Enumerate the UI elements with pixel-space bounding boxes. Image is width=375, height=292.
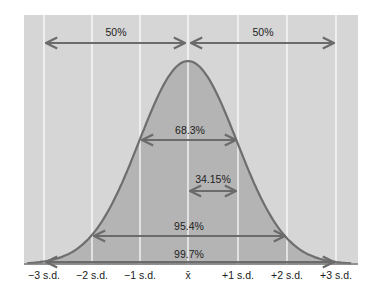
tick-mean: x̄ [185, 269, 191, 281]
tick-plus-1sd: +1 s.d. [222, 269, 254, 281]
tick-minus-3sd: −3 s.d. [28, 269, 60, 281]
normal-distribution-chart: 50% 50% 68.3% 34.15% 95.4% 99.7% −3 s.d.… [0, 0, 375, 292]
tick-minus-2sd: −2 s.d. [76, 269, 108, 281]
label-50-left: 50% [105, 26, 126, 38]
label-34: 34.15% [195, 173, 231, 185]
label-50-right: 50% [252, 26, 273, 38]
label-95: 95.4% [174, 220, 204, 232]
label-99: 99.7% [174, 248, 204, 260]
label-68: 68.3% [175, 124, 205, 136]
tick-minus-1sd: −1 s.d. [124, 269, 156, 281]
tick-plus-2sd: +2 s.d. [271, 269, 303, 281]
tick-plus-3sd: +3 s.d. [320, 269, 352, 281]
